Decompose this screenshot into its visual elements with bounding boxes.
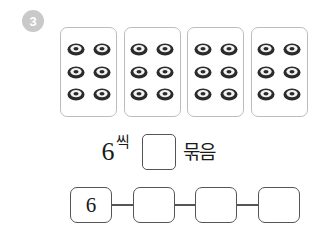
donut-icon	[130, 66, 148, 79]
donut-row	[188, 43, 243, 56]
count-number: 6	[102, 139, 115, 165]
donut-icon	[283, 66, 301, 79]
skip-count-chain: 6	[70, 186, 300, 224]
donut-icon	[93, 43, 111, 56]
group-card	[251, 27, 308, 117]
donut-row	[252, 43, 307, 56]
answer-box-groups[interactable]	[142, 134, 176, 170]
donut-row	[61, 66, 116, 79]
donut-icon	[283, 43, 301, 56]
donut-row	[188, 66, 243, 79]
chain-connector	[175, 204, 196, 205]
sentence-row: 6 씩 묶음	[0, 130, 316, 174]
donut-row	[61, 88, 116, 101]
problem-number-badge: 3	[22, 10, 44, 32]
donut-icon	[93, 88, 111, 101]
chain-box-4[interactable]	[258, 187, 300, 223]
donut-icon	[220, 88, 238, 101]
donut-icon	[67, 43, 85, 56]
chain-connector	[237, 204, 258, 205]
donut-row	[252, 66, 307, 79]
donut-row	[252, 88, 307, 101]
donut-row	[125, 88, 180, 101]
groups-label: 묶음	[183, 143, 215, 162]
donut-icon	[156, 88, 174, 101]
donut-icon	[93, 66, 111, 79]
donut-icon	[67, 88, 85, 101]
donut-icon	[130, 88, 148, 101]
donut-icon	[220, 43, 238, 56]
donut-icon	[130, 43, 148, 56]
donut-icon	[156, 66, 174, 79]
donut-icon	[257, 88, 275, 101]
donut-icon	[257, 66, 275, 79]
group-card	[124, 27, 181, 117]
donut-row	[61, 43, 116, 56]
donut-row	[188, 88, 243, 101]
chain-box-1[interactable]: 6	[70, 187, 112, 223]
donut-icon	[220, 66, 238, 79]
donut-icon	[194, 88, 212, 101]
donut-row	[125, 43, 180, 56]
group-card	[187, 27, 244, 117]
donut-icon	[67, 66, 85, 79]
group-cards-row	[60, 27, 308, 117]
chain-box-3[interactable]	[195, 187, 237, 223]
donut-row	[125, 66, 180, 79]
donut-icon	[194, 66, 212, 79]
chain-box-2[interactable]	[133, 187, 175, 223]
chain-connector	[112, 204, 133, 205]
group-card	[60, 27, 117, 117]
donut-icon	[257, 43, 275, 56]
count-suffix-label: 씩	[116, 134, 130, 149]
donut-icon	[194, 43, 212, 56]
donut-icon	[283, 88, 301, 101]
donut-icon	[156, 43, 174, 56]
